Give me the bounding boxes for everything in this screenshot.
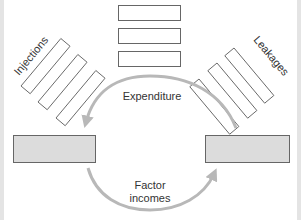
top-box-3: [119, 52, 181, 67]
leakages-label: Leakages: [251, 34, 291, 79]
factor-incomes-label-line2: incomes: [130, 192, 171, 204]
top-box-2: [119, 29, 181, 44]
factor-incomes-label-line1: Factor: [134, 179, 166, 191]
left-sector-box: [14, 136, 96, 163]
circular-flow-diagram: Injections Leakages Expenditure Factor i…: [0, 0, 301, 220]
right-sector-box: [206, 136, 290, 163]
top-box-1: [119, 6, 181, 21]
top-box-stack: [119, 6, 181, 67]
expenditure-label: Expenditure: [123, 90, 182, 102]
